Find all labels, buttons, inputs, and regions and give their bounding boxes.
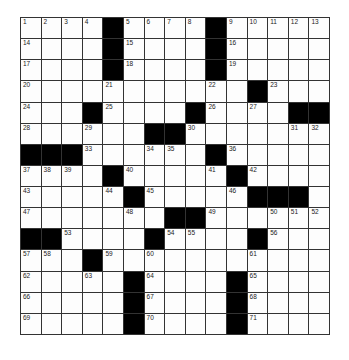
grid-cell[interactable] — [268, 103, 288, 123]
grid-cell[interactable]: 28 — [21, 124, 41, 144]
grid-cell[interactable] — [227, 250, 247, 270]
grid-cell[interactable] — [165, 81, 185, 101]
grid-cell[interactable]: 34 — [145, 145, 165, 165]
grid-cell[interactable]: 59 — [103, 250, 123, 270]
grid-cell[interactable]: 30 — [186, 124, 206, 144]
grid-cell[interactable] — [83, 39, 103, 59]
grid-cell[interactable] — [227, 103, 247, 123]
grid-cell[interactable] — [165, 314, 185, 334]
grid-cell[interactable] — [289, 250, 309, 270]
grid-cell[interactable] — [186, 60, 206, 80]
grid-cell[interactable] — [62, 272, 82, 292]
grid-cell[interactable]: 13 — [309, 18, 329, 38]
grid-cell[interactable] — [83, 314, 103, 334]
grid-cell[interactable]: 64 — [145, 272, 165, 292]
grid-cell[interactable] — [62, 314, 82, 334]
grid-cell[interactable]: 31 — [289, 124, 309, 144]
grid-cell[interactable] — [103, 145, 123, 165]
grid-cell[interactable] — [227, 229, 247, 249]
grid-cell[interactable]: 70 — [145, 314, 165, 334]
grid-cell[interactable] — [268, 250, 288, 270]
grid-cell[interactable] — [289, 229, 309, 249]
grid-cell[interactable]: 23 — [268, 81, 288, 101]
grid-cell[interactable]: 8 — [186, 18, 206, 38]
grid-cell[interactable] — [62, 208, 82, 228]
grid-cell[interactable] — [289, 293, 309, 313]
grid-cell[interactable] — [124, 145, 144, 165]
grid-cell[interactable] — [62, 187, 82, 207]
grid-cell[interactable] — [186, 187, 206, 207]
grid-cell[interactable] — [186, 145, 206, 165]
grid-cell[interactable]: 4 — [83, 18, 103, 38]
grid-cell[interactable] — [268, 145, 288, 165]
grid-cell[interactable] — [309, 187, 329, 207]
grid-cell[interactable] — [103, 314, 123, 334]
grid-cell[interactable]: 6 — [145, 18, 165, 38]
grid-cell[interactable] — [124, 229, 144, 249]
grid-cell[interactable] — [227, 208, 247, 228]
grid-cell[interactable] — [165, 250, 185, 270]
grid-cell[interactable] — [309, 145, 329, 165]
grid-cell[interactable] — [289, 81, 309, 101]
grid-cell[interactable] — [83, 208, 103, 228]
grid-cell[interactable] — [186, 39, 206, 59]
grid-cell[interactable] — [268, 166, 288, 186]
grid-cell[interactable] — [309, 272, 329, 292]
grid-cell[interactable] — [186, 293, 206, 313]
grid-cell[interactable] — [42, 314, 62, 334]
grid-cell[interactable]: 3 — [62, 18, 82, 38]
grid-cell[interactable] — [42, 208, 62, 228]
grid-cell[interactable]: 21 — [103, 81, 123, 101]
grid-cell[interactable] — [42, 60, 62, 80]
grid-cell[interactable] — [42, 272, 62, 292]
grid-cell[interactable] — [186, 272, 206, 292]
grid-cell[interactable] — [268, 272, 288, 292]
grid-cell[interactable] — [165, 272, 185, 292]
grid-cell[interactable] — [145, 81, 165, 101]
grid-cell[interactable] — [165, 103, 185, 123]
grid-cell[interactable] — [145, 166, 165, 186]
grid-cell[interactable] — [309, 81, 329, 101]
grid-cell[interactable]: 24 — [21, 103, 41, 123]
grid-cell[interactable] — [268, 39, 288, 59]
grid-cell[interactable] — [309, 293, 329, 313]
grid-cell[interactable] — [83, 229, 103, 249]
grid-cell[interactable]: 1 — [21, 18, 41, 38]
grid-cell[interactable] — [248, 39, 268, 59]
grid-cell[interactable]: 46 — [227, 187, 247, 207]
grid-cell[interactable] — [124, 81, 144, 101]
grid-cell[interactable]: 47 — [21, 208, 41, 228]
grid-cell[interactable]: 11 — [268, 18, 288, 38]
grid-cell[interactable] — [289, 60, 309, 80]
grid-cell[interactable]: 58 — [42, 250, 62, 270]
grid-cell[interactable] — [62, 39, 82, 59]
grid-cell[interactable]: 27 — [248, 103, 268, 123]
grid-cell[interactable] — [103, 293, 123, 313]
grid-cell[interactable] — [268, 293, 288, 313]
grid-cell[interactable] — [186, 314, 206, 334]
grid-cell[interactable] — [62, 81, 82, 101]
grid-cell[interactable]: 17 — [21, 60, 41, 80]
grid-cell[interactable] — [103, 208, 123, 228]
grid-cell[interactable] — [248, 145, 268, 165]
grid-cell[interactable] — [124, 103, 144, 123]
grid-cell[interactable] — [62, 124, 82, 144]
grid-cell[interactable] — [206, 293, 226, 313]
grid-cell[interactable] — [186, 166, 206, 186]
grid-cell[interactable] — [145, 103, 165, 123]
grid-cell[interactable] — [83, 187, 103, 207]
grid-cell[interactable] — [165, 60, 185, 80]
grid-cell[interactable] — [309, 39, 329, 59]
grid-cell[interactable]: 10 — [248, 18, 268, 38]
grid-cell[interactable]: 16 — [227, 39, 247, 59]
grid-cell[interactable] — [83, 60, 103, 80]
grid-cell[interactable] — [248, 60, 268, 80]
grid-cell[interactable] — [289, 166, 309, 186]
grid-cell[interactable]: 38 — [42, 166, 62, 186]
grid-cell[interactable] — [248, 208, 268, 228]
grid-cell[interactable] — [268, 124, 288, 144]
grid-cell[interactable]: 37 — [21, 166, 41, 186]
grid-cell[interactable] — [206, 229, 226, 249]
grid-cell[interactable]: 18 — [124, 60, 144, 80]
grid-cell[interactable]: 53 — [62, 229, 82, 249]
